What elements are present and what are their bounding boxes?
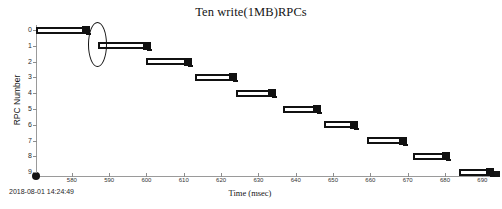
y-tick-mark: [33, 141, 37, 142]
x-tick-label: 610: [169, 177, 199, 183]
x-tick-label: 580: [57, 177, 87, 183]
rpc-end-foot: [272, 96, 277, 98]
rpc-end-foot: [490, 175, 495, 177]
y-tick-label: 7: [22, 137, 32, 144]
x-tick-label: 670: [393, 177, 423, 183]
origin-marker: [32, 172, 40, 180]
ellipse-annotation-icon: [88, 22, 107, 67]
y-tick-label: 3: [22, 73, 32, 80]
rpc-timeline-chart: Ten write(1MB)RPCs 580590600610620630640…: [0, 0, 502, 209]
plot-area: 580590600610620630640650660670680690 012…: [0, 0, 502, 209]
y-axis-line: [36, 25, 37, 176]
y-tick-label: 5: [22, 105, 32, 112]
rpc-duration-bar: [146, 58, 189, 65]
rpc-end-foot: [188, 65, 193, 67]
y-tick-mark: [33, 156, 37, 157]
y-tick-label: 6: [22, 121, 32, 128]
x-axis-title: Time (msec): [180, 188, 320, 198]
x-tick-label: 660: [355, 177, 385, 183]
y-tick-label: 0: [22, 26, 32, 33]
rpc-end-foot: [446, 159, 451, 161]
rpc-end-foot: [233, 80, 238, 82]
y-tick-label: 8: [22, 152, 32, 159]
x-tick-label: 630: [243, 177, 273, 183]
y-axis-title: RPC Number: [12, 45, 22, 155]
rpc-duration-bar: [36, 27, 87, 34]
y-tick-mark: [33, 77, 37, 78]
x-tick-label: 690: [467, 177, 497, 183]
y-tick-mark: [33, 172, 37, 173]
x-tick-label: 590: [94, 177, 124, 183]
x-tick-label: 680: [430, 177, 460, 183]
rpc-end-foot: [403, 144, 408, 146]
x-tick-label: 640: [281, 177, 311, 183]
y-tick-mark: [33, 109, 37, 110]
rpc-end-foot: [147, 49, 152, 51]
y-tick-mark: [33, 46, 37, 47]
x-tick-label: 620: [206, 177, 236, 183]
y-tick-mark: [33, 125, 37, 126]
y-tick-label: 2: [22, 58, 32, 65]
rpc-end-foot: [354, 128, 359, 130]
rpc-end-foot: [317, 112, 322, 114]
x-tick-label: 650: [318, 177, 348, 183]
y-tick-mark: [33, 93, 37, 94]
x-tick-label: 600: [131, 177, 161, 183]
y-tick-label: 9: [22, 168, 32, 175]
timestamp-label: 2018-08-01 14:24:49: [9, 188, 74, 195]
y-tick-mark: [33, 62, 37, 63]
y-tick-label: 1: [22, 42, 32, 49]
y-tick-label: 4: [22, 89, 32, 96]
